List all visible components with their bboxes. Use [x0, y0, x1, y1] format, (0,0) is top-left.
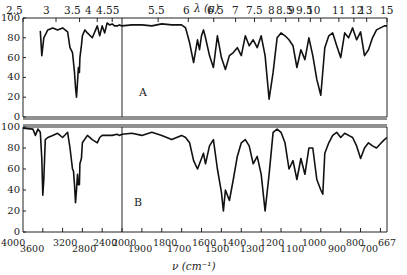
top-tick-label: 15 — [380, 5, 393, 16]
top-tick-label: 3.5 — [64, 5, 81, 16]
bottom-tick-label: 1000 — [302, 238, 326, 248]
top-tick-label: 4.55 — [96, 5, 119, 16]
bottom-tick-label: 900 — [328, 244, 346, 254]
plot-frame — [23, 18, 387, 232]
panel-b-label: B — [134, 196, 142, 209]
y-tick-label: 0 — [0, 227, 20, 237]
top-tick-label: 5.5 — [148, 5, 165, 16]
y-tick-label: 40 — [0, 72, 20, 82]
bottom-tick-label: 667 — [378, 238, 396, 248]
panel-a-label: A — [139, 86, 147, 99]
bottom-tick-label: 700 — [360, 244, 378, 254]
bottom-tick-label: 1900 — [128, 244, 152, 254]
top-tick-label: 7.5 — [246, 5, 263, 16]
ir-spectrum-figure — [0, 0, 407, 275]
top-tick-label: 7 — [232, 5, 239, 16]
top-axis-title: λ (μ) — [194, 2, 219, 14]
top-tick-label: 11 — [332, 5, 345, 16]
spectrum-a-line — [40, 23, 387, 99]
y-tick-label: 100 — [0, 122, 20, 132]
spectrum-b-line — [23, 128, 387, 211]
bottom-tick-label: 1100 — [280, 244, 304, 254]
y-tick-label: 40 — [0, 185, 20, 195]
y-tick-label: 20 — [0, 206, 20, 216]
bottom-tick-label: 1700 — [167, 244, 191, 254]
y-tick-label: 60 — [0, 164, 20, 174]
y-tick-label: 80 — [0, 143, 20, 153]
top-tick-label: 3 — [43, 5, 50, 16]
top-tick-label: 9 — [288, 5, 295, 16]
y-tick-label: 20 — [0, 92, 20, 102]
bottom-axis-title: ν (cm⁻¹) — [172, 260, 216, 272]
top-tick-label: 13 — [359, 5, 372, 16]
y-tick-label: 80 — [0, 33, 20, 43]
top-tick-label: 6 — [183, 5, 190, 16]
top-tick-label: 2.5 — [6, 5, 23, 16]
y-tick-label: 60 — [0, 53, 20, 63]
bottom-tick-label: 3600 — [20, 244, 44, 254]
top-tick-label: 10 — [307, 5, 320, 16]
top-tick-label: 4 — [85, 5, 92, 16]
top-tick-label: 8 — [268, 5, 275, 16]
